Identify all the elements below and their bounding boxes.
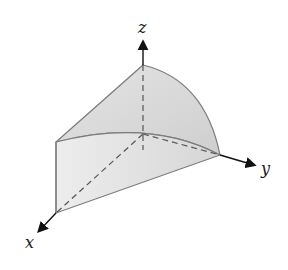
y-axis-label: y [260, 159, 271, 178]
front-face [56, 133, 220, 213]
x-axis [39, 213, 56, 231]
x-axis-label: x [25, 233, 34, 252]
z-axis-label: z [137, 18, 147, 37]
y-axis [220, 155, 254, 165]
solid-diagram: z y x [0, 0, 288, 270]
